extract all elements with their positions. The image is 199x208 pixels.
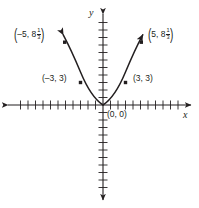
point-label-neg5-lead: –5, 8 bbox=[17, 30, 36, 39]
y-axis-label: y bbox=[89, 8, 93, 18]
paren-close: ) bbox=[41, 28, 44, 41]
marker-pos3 bbox=[124, 81, 127, 84]
x-axis-label: x bbox=[183, 110, 187, 120]
marker-neg5 bbox=[63, 41, 66, 44]
paren-open: ( bbox=[14, 28, 17, 41]
point-label-pos3: (3, 3) bbox=[133, 74, 153, 83]
point-label-neg3: (–3, 3) bbox=[42, 74, 67, 83]
graph-figure: y x (0, 0) (–3, 3) (3, 3) ( –5, 8 1 3 ) … bbox=[0, 0, 199, 208]
point-label-pos5: ( 5, 8 1 3 ) bbox=[148, 28, 173, 41]
point-label-origin: (0, 0) bbox=[107, 110, 127, 119]
paren-open: ( bbox=[148, 28, 151, 41]
point-label-neg5: ( –5, 8 1 3 ) bbox=[14, 28, 44, 41]
paren-close: ) bbox=[170, 28, 173, 41]
point-label-pos5-lead: 5, 8 bbox=[151, 30, 165, 39]
marker-pos5 bbox=[140, 41, 143, 44]
y-axis bbox=[99, 14, 108, 200]
marker-neg3 bbox=[79, 81, 82, 84]
